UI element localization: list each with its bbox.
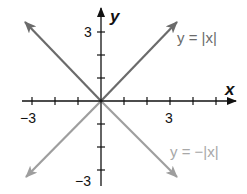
equation-label-neg-abs-x: y = −|x| [170,143,219,160]
y-tick-label-3: 3 [84,24,92,40]
equation-label-abs-x: y = |x| [177,29,217,46]
x-tick-label-3: 3 [165,110,173,126]
coordinate-plane: −3 3 3 −3 y x y = |x| y = −|x| [0,0,247,194]
x-axis-label: x [224,80,236,99]
graph-figure: −3 3 3 −3 y x y = |x| y = −|x| [0,0,247,194]
y-axis-label: y [109,7,121,26]
x-tick-label-neg3: −3 [20,110,36,126]
y-tick-label-neg3: −3 [75,173,91,189]
x-axis [22,97,236,105]
